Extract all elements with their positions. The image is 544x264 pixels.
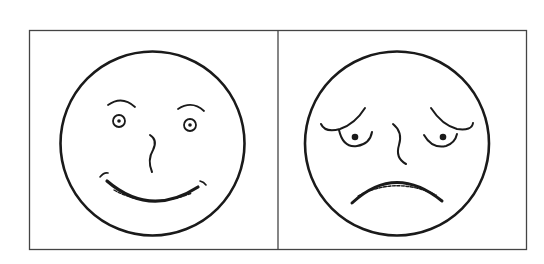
left-cheek [100, 173, 108, 177]
right-eyebrow [178, 105, 204, 111]
happy-face-icon [61, 52, 245, 236]
right-cheek [200, 181, 206, 185]
nose [393, 124, 406, 164]
sad-face-icon [305, 52, 489, 236]
right-eyebrow [431, 108, 473, 129]
face-outline [61, 52, 245, 236]
left-eyebrow [108, 100, 135, 107]
face-outline [305, 52, 489, 236]
smile-mouth [107, 181, 198, 201]
faces-figure [0, 0, 544, 264]
left-eyebrow [321, 108, 365, 130]
nose [150, 135, 155, 172]
